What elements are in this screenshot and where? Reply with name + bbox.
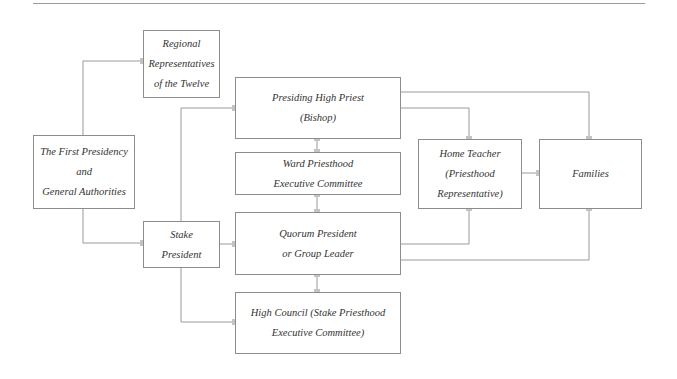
node-first-presidency: The First Presidency and General Authori…	[33, 135, 135, 209]
node-presiding-high-priest: Presiding High Priest (Bishop)	[235, 77, 401, 139]
node-label-line: Representative)	[437, 184, 503, 204]
node-ward-executive-committee: Ward Priesthood Executive Committee	[235, 152, 401, 195]
node-quorum-president: Quorum President or Group Leader	[235, 212, 401, 275]
node-regional-representatives: Regional Representatives of the Twelve	[143, 30, 220, 98]
node-label-line: Executive Committee)	[272, 323, 364, 343]
node-label-line: or Group Leader	[282, 244, 353, 264]
node-label-line: Home Teacher	[439, 144, 500, 164]
node-high-council: High Council (Stake Priesthood Executive…	[235, 292, 401, 354]
node-label-line: Ward Priesthood	[283, 154, 354, 174]
node-label-line: Presiding High Priest	[272, 88, 364, 108]
node-label-line: Executive Committee	[274, 174, 363, 194]
node-label-line: of the Twelve	[154, 74, 209, 94]
node-label-line: Representatives	[148, 54, 214, 74]
node-label-line: General Authorities	[42, 182, 126, 202]
node-label-line: Quorum President	[279, 224, 356, 244]
node-label-line: Regional	[163, 34, 201, 54]
node-label-line: and	[76, 162, 92, 182]
node-label-line: (Priesthood	[445, 164, 495, 184]
node-families: Families	[539, 139, 642, 209]
node-label-line: The First Presidency	[40, 142, 128, 162]
node-label-line: President	[162, 245, 202, 265]
node-stake-president: Stake President	[143, 221, 220, 268]
node-label-line: High Council (Stake Priesthood	[251, 303, 385, 323]
node-label-line: Families	[572, 164, 609, 184]
node-label-line: Stake	[170, 225, 193, 245]
node-home-teacher: Home Teacher (Priesthood Representative)	[418, 139, 522, 209]
node-label-line: (Bishop)	[300, 108, 336, 128]
